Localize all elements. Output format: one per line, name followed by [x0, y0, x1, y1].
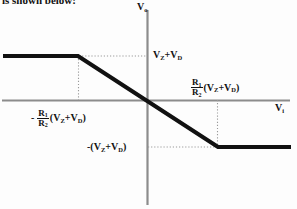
upper-clip-plus-v: +V — [165, 49, 178, 60]
left-breakpoint-tail: (VZ+VD) — [50, 113, 86, 123]
left-breakpoint-numerator: R1 — [37, 109, 49, 118]
upper-clip-label: VZ+VD — [153, 50, 182, 60]
right-den-r: R — [192, 87, 199, 97]
right-tail-sub-d: D — [231, 86, 236, 93]
lower-clip-sub-d: D — [118, 146, 123, 153]
left-tail-plus-v: +V — [65, 112, 78, 123]
right-num-r: R — [192, 77, 199, 87]
transfer-characteristic-figure: is shown below: Vo Vi VZ+VD -(VZ+VD) — [0, 0, 297, 209]
y-axis-label-sub: o — [144, 6, 147, 13]
left-breakpoint-label: - R1 R2 (VZ+VD) — [31, 108, 86, 128]
left-breakpoint-minus: - — [31, 113, 34, 123]
left-den-r: R — [38, 118, 45, 128]
right-breakpoint-fraction: R1 R2 — [191, 78, 203, 97]
left-tail-sub-z: Z — [60, 117, 64, 124]
y-axis-label: Vo — [137, 2, 147, 12]
right-breakpoint-label: R1 R2 (VZ+VD) — [190, 72, 239, 97]
plot-canvas — [0, 0, 297, 209]
left-num-r: R — [38, 108, 45, 118]
left-tail-close: ) — [82, 112, 85, 123]
left-breakpoint-fraction: R1 R2 — [37, 109, 49, 128]
upper-clip-sub-z: Z — [160, 54, 164, 61]
lower-clip-sub-z: Z — [101, 146, 105, 153]
left-tail-open: (V — [50, 112, 61, 123]
right-breakpoint-tail: (VZ+VD) — [204, 83, 240, 93]
upper-clip-sub-d: D — [178, 54, 183, 61]
right-num-sub: 1 — [199, 82, 202, 88]
right-breakpoint-denominator: R2 — [191, 87, 203, 97]
right-tail-plus-v: +V — [218, 82, 231, 93]
lower-clip-prefix: -( — [87, 141, 94, 152]
right-tail-sub-z: Z — [214, 86, 218, 93]
right-breakpoint-expression: R1 R2 (VZ+VD) — [190, 78, 239, 97]
x-axis-label-sub: i — [282, 107, 284, 114]
lower-clip-suffix: ) — [123, 141, 126, 152]
left-breakpoint-expression: - R1 R2 (VZ+VD) — [31, 109, 86, 128]
left-den-sub: 2 — [45, 122, 48, 128]
left-breakpoint-denominator: R2 — [37, 118, 49, 128]
right-tail-open: (V — [204, 82, 215, 93]
left-num-sub: 1 — [45, 112, 48, 118]
x-axis-label: Vi — [275, 103, 284, 113]
lower-clip-plus-v: +V — [105, 141, 118, 152]
right-breakpoint-numerator: R1 — [191, 78, 203, 87]
right-tail-close: ) — [236, 82, 239, 93]
lower-clip-v: V — [94, 141, 101, 152]
right-den-sub: 2 — [199, 92, 202, 98]
lower-clip-label: -(VZ+VD) — [87, 142, 126, 152]
left-tail-sub-d: D — [78, 117, 83, 124]
